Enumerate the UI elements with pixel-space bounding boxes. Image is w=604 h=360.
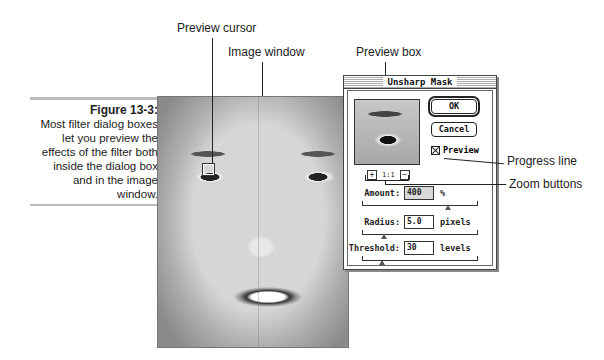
dialog-title: Unsharp Mask xyxy=(383,77,456,87)
leader-image-window xyxy=(262,62,263,96)
radius-slider-thumb[interactable] xyxy=(381,234,387,239)
checkbox-checked-icon xyxy=(431,146,440,155)
caption-line: inside the dialog box xyxy=(8,159,158,173)
zoom-in-button[interactable]: + xyxy=(367,170,377,180)
threshold-label: Threshold: xyxy=(349,243,400,253)
radius-label: Radius: xyxy=(364,217,400,227)
amount-label: Amount: xyxy=(364,188,400,198)
amount-input[interactable]: 400 xyxy=(404,186,434,200)
caption-rule-bottom xyxy=(30,204,158,206)
caption-line: and in the image xyxy=(8,173,158,187)
amount-unit: % xyxy=(440,188,445,198)
dialog-titlebar[interactable]: Unsharp Mask xyxy=(344,76,496,89)
caption-line: effects of the filter both xyxy=(8,145,158,159)
radius-unit: pixels xyxy=(440,217,471,227)
radius-row: Radius: 5.0 pixels xyxy=(348,215,492,229)
preview-box[interactable] xyxy=(354,99,420,165)
cancel-button[interactable]: Cancel xyxy=(431,122,477,137)
threshold-slider[interactable] xyxy=(362,256,478,261)
amount-row: Amount: 400 % xyxy=(348,186,492,200)
leader-preview-cursor xyxy=(212,38,213,164)
threshold-unit: levels xyxy=(440,243,471,253)
figure-caption: Figure 13-3: Most filter dialog boxes le… xyxy=(8,103,158,201)
image-window[interactable] xyxy=(157,96,349,348)
callout-preview-box: Preview box xyxy=(356,45,421,59)
amount-slider[interactable] xyxy=(362,201,478,206)
threshold-row: Threshold: 30 levels xyxy=(348,241,492,255)
caption-title: Figure 13-3: xyxy=(8,103,158,117)
ok-button[interactable]: OK xyxy=(431,99,477,114)
callout-zoom-buttons: Zoom buttons xyxy=(509,177,582,191)
unsharp-mask-dialog: Unsharp Mask + 1:1 − OK Cancel Preview A… xyxy=(343,75,497,270)
preview-checkbox[interactable]: Preview xyxy=(431,145,479,155)
amount-slider-thumb[interactable] xyxy=(445,205,451,210)
caption-line: Most filter dialog boxes xyxy=(8,117,158,131)
leader-zoom-buttons xyxy=(385,184,506,185)
dialog-body: + 1:1 − OK Cancel Preview Amount: 400 % … xyxy=(347,90,493,266)
preview-label: Preview xyxy=(443,145,479,155)
caption-body: Most filter dialog boxes let you preview… xyxy=(8,117,158,201)
leader-zoom-buttons-stem xyxy=(385,180,386,184)
radius-input[interactable]: 5.0 xyxy=(404,215,434,229)
preview-cursor[interactable] xyxy=(203,164,214,175)
threshold-input[interactable]: 30 xyxy=(404,241,434,255)
caption-line: window. xyxy=(8,187,158,201)
caption-line: let you preview the xyxy=(8,131,158,145)
zoom-bracket-bottom xyxy=(365,180,409,181)
caption-rule-top xyxy=(30,97,158,100)
callout-preview-cursor: Preview cursor xyxy=(177,21,256,35)
radius-slider[interactable] xyxy=(362,230,478,235)
callout-progress-line: Progress line xyxy=(507,154,577,168)
preview-split-line xyxy=(258,97,259,347)
callout-image-window: Image window xyxy=(228,45,305,59)
zoom-level: 1:1 xyxy=(382,171,395,179)
zoom-controls: + 1:1 − xyxy=(367,170,410,180)
threshold-slider-thumb[interactable] xyxy=(379,260,385,265)
